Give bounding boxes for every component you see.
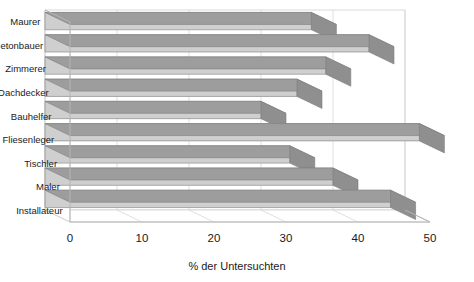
category-label: Maurer xyxy=(10,16,40,27)
bar-top-face xyxy=(45,146,315,158)
x-tick-label: 50 xyxy=(424,232,437,244)
x-tick-label: 40 xyxy=(352,232,365,244)
x-tick-label: 20 xyxy=(208,232,221,244)
category-label: Betonbauer xyxy=(0,40,43,51)
bar-top-face xyxy=(45,12,336,24)
category-label: Maler xyxy=(36,181,60,192)
category-label: Fliesenleger xyxy=(3,134,55,145)
category-label: Dachdecker xyxy=(0,87,49,98)
bar-top-face xyxy=(45,35,394,47)
bar-top-face xyxy=(45,190,416,202)
category-label: Bauhelfer xyxy=(11,111,52,122)
chart-container: MaurerBetonbauerZimmererDachdeckerBauhel… xyxy=(0,0,474,282)
bar-end-cap xyxy=(419,124,444,153)
x-tick-label: 0 xyxy=(67,232,73,244)
bar-top-face xyxy=(45,101,286,113)
category-label: Tischler xyxy=(24,158,57,169)
bar-top-face xyxy=(45,57,351,69)
bar-top-face xyxy=(45,79,322,91)
category-label: Installateur xyxy=(16,205,62,216)
bar-chart-svg: MaurerBetonbauerZimmererDachdeckerBauhel… xyxy=(0,0,474,282)
bar-top-face xyxy=(45,124,444,136)
x-tick-label: 30 xyxy=(280,232,293,244)
x-axis-title: % der Untersuchten xyxy=(188,260,285,272)
bar-top-face xyxy=(45,168,358,180)
floor-wall xyxy=(45,210,430,222)
x-axis-tick-labels: 01020304050 xyxy=(67,232,437,244)
category-label: Zimmerer xyxy=(5,63,46,74)
x-tick-label: 10 xyxy=(136,232,149,244)
